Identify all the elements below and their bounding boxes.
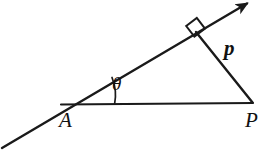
side-label-p: p [224,38,235,59]
ray-through-a-line [2,4,247,149]
base-segment-ap [61,103,253,105]
vertex-label-a: A [59,110,72,131]
diagram-canvas [0,0,272,157]
geometry-diagram: A P p θ [0,0,272,157]
vertex-label-p: P [245,110,258,131]
angle-label-theta: θ [112,74,121,93]
